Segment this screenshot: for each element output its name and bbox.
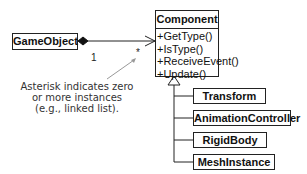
- annotation-line-1: Asterisk indicates zero: [17, 81, 137, 92]
- class-rigidbody: RigidBody: [193, 132, 267, 148]
- annotation-line-3: (e.g., linked list).: [17, 103, 137, 114]
- annotation-pointer-line: [107, 60, 134, 79]
- method-istype: +IsType(): [156, 43, 218, 56]
- method-update: +Update(): [156, 68, 218, 81]
- class-meshinstance: MeshInstance: [193, 154, 275, 170]
- component-multiplicity: *: [136, 47, 140, 58]
- class-gameobject: GameObject: [12, 33, 78, 50]
- class-gameobject-name: GameObject: [13, 34, 77, 49]
- annotation-line-2: or more instances: [17, 92, 137, 103]
- owner-multiplicity: 1: [91, 52, 97, 63]
- class-meshinstance-name: MeshInstance: [194, 155, 274, 169]
- class-rigidbody-name: RigidBody: [194, 133, 266, 147]
- class-transform: Transform: [193, 88, 266, 104]
- method-gettype: +GetType(): [156, 30, 218, 43]
- class-animationcontroller: AnimationController: [193, 110, 291, 126]
- class-animationcontroller-name: AnimationController: [194, 111, 290, 125]
- class-component-name: Component: [156, 11, 218, 29]
- class-transform-name: Transform: [194, 89, 265, 103]
- multiplicity-annotation: Asterisk indicates zero or more instance…: [17, 81, 137, 114]
- class-component: Component +GetType() +IsType() +ReceiveE…: [155, 10, 219, 77]
- composition-diamond-icon: [78, 37, 88, 45]
- class-component-methods: +GetType() +IsType() +ReceiveEvent() +Up…: [156, 29, 218, 80]
- annotation-arrowhead-icon: [131, 58, 136, 63]
- method-receiveevent: +ReceiveEvent(): [156, 55, 218, 68]
